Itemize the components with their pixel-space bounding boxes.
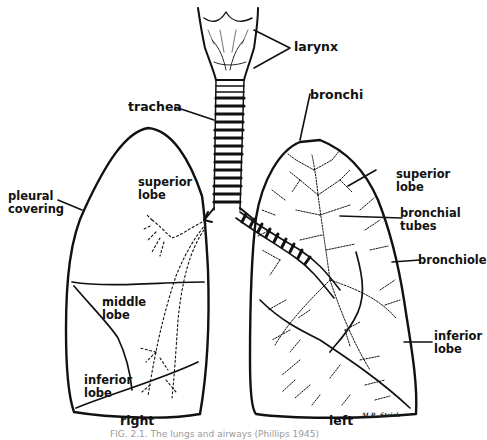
- label-right: right: [120, 414, 154, 427]
- label-bronchi: bronchi: [310, 88, 363, 101]
- bronchi-drawing: [204, 208, 340, 298]
- left-oblique-fissure: [260, 252, 410, 408]
- trachea-drawing: [214, 80, 244, 210]
- right-horizontal-fissure: [72, 282, 204, 285]
- label-left-superior-lobe: superior lobe: [396, 168, 450, 194]
- artist-signature: M.R. Strick: [362, 411, 400, 418]
- figure-caption: FIG. 2.1. The lungs and airways (Phillip…: [110, 429, 319, 439]
- label-larynx: larynx: [294, 40, 338, 53]
- right-bronchial-tree: [140, 214, 206, 398]
- label-pleural-covering: pleural covering: [8, 190, 64, 216]
- label-bronchiole: bronchiole: [418, 254, 487, 267]
- label-left: left: [329, 414, 353, 427]
- label-bronchial-tubes: bronchial tubes: [400, 207, 461, 233]
- label-right-superior-lobe: superior lobe: [138, 176, 192, 202]
- label-left-inferior-lobe: inferior lobe: [434, 330, 482, 356]
- label-right-middle-lobe: middle lobe: [102, 296, 146, 322]
- label-right-inferior-lobe: inferior lobe: [84, 374, 132, 400]
- left-bronchial-tree: [258, 150, 400, 405]
- label-trachea: trachea: [128, 100, 182, 113]
- larynx-drawing: [198, 8, 258, 92]
- left-lung-outline: [250, 140, 416, 418]
